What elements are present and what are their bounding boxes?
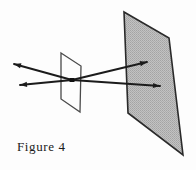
ray-upper-tail-arrowhead [14, 63, 21, 68]
pinhole-point [70, 78, 75, 82]
ray-lower-incoming-segment [20, 80, 72, 85]
pinhole-plane [61, 53, 81, 112]
figure-container: Figure 4 [0, 0, 196, 170]
figure-caption: Figure 4 [17, 139, 137, 155]
ray-upper-incoming-segment [14, 64, 72, 80]
